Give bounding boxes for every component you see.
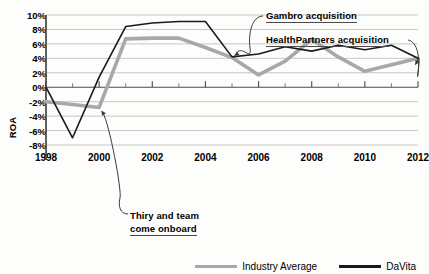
legend-item-industry-average: Industry Average	[195, 261, 317, 272]
annotation-leader-gambro	[237, 16, 263, 54]
annotation-healthpartners-text: HealthPartners acquisition	[266, 34, 389, 47]
annotation-healthpartners-acquisition: HealthPartners acquisition	[266, 34, 389, 47]
annotation-gambro-acquisition: Gambro acquisition	[266, 10, 357, 23]
annotation-thiry-line1: Thiry and team	[130, 210, 199, 223]
legend-label-davita: DaVita	[386, 261, 416, 272]
legend-label-industry-average: Industry Average	[242, 261, 317, 272]
annotation-thiry-onboard: Thiry and team come onboard	[130, 210, 199, 235]
legend-swatch-davita-icon	[339, 265, 381, 267]
annotation-thiry-line2: come onboard	[130, 223, 197, 236]
legend-swatch-industry-average-icon	[195, 265, 237, 268]
annotation-gambro-text: Gambro acquisition	[266, 10, 357, 23]
chart-legend: Industry Average DaVita	[0, 261, 424, 272]
annotation-leader-thiry	[103, 113, 128, 214]
legend-item-davita: DaVita	[339, 261, 416, 272]
annotation-arrow-gambro	[234, 51, 239, 56]
